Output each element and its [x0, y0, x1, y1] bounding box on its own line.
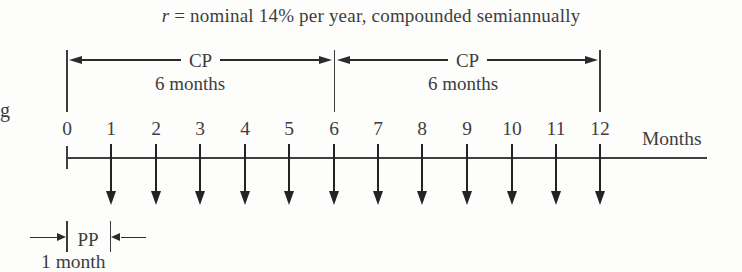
- payment-arrow-1: [105, 144, 117, 205]
- arrow-line: [350, 59, 448, 61]
- payment-arrow-9: [461, 144, 473, 205]
- cp-label-1: CP: [181, 51, 220, 70]
- origin-tick: [66, 146, 68, 169]
- cp-span-arrow-2: CP: [337, 50, 598, 70]
- arrow-down-icon: [462, 191, 472, 205]
- arrow-down-icon: [507, 191, 517, 205]
- arrow-stem: [288, 144, 291, 191]
- arrow-line: [487, 59, 585, 61]
- period-boundary-line-12: [599, 50, 601, 112]
- arrowhead-left-icon: [69, 56, 82, 64]
- payment-arrow-10: [506, 144, 518, 205]
- figure-title-text: = nominal 14% per year, compounded semia…: [174, 5, 580, 26]
- month-tick-label-7: 7: [373, 118, 383, 140]
- arrow-down-icon: [195, 191, 205, 205]
- arrow-line: [82, 59, 181, 61]
- pp-boundary-tick-left: [66, 221, 68, 252]
- pp-arrow-line-right: [121, 237, 146, 239]
- month-tick-label-4: 4: [240, 118, 250, 140]
- arrow-down-icon: [240, 191, 250, 205]
- arrowhead-right-icon: [319, 56, 332, 64]
- axis-unit-label: Months: [642, 128, 702, 150]
- arrow-down-icon: [106, 191, 116, 205]
- margin-text-fragment: g: [0, 99, 10, 122]
- arrow-stem: [377, 144, 380, 191]
- arrow-stem: [421, 144, 424, 191]
- period-boundary-line-0: [66, 50, 68, 112]
- pp-duration: 1 month: [41, 251, 105, 272]
- payment-arrow-3: [194, 144, 206, 205]
- arrow-down-icon: [417, 191, 427, 205]
- pp-arrow-line-left: [30, 237, 57, 239]
- month-tick-label-2: 2: [151, 118, 161, 140]
- arrow-stem: [110, 144, 113, 191]
- month-tick-label-0: 0: [62, 118, 72, 140]
- month-tick-label-1: 1: [106, 118, 116, 140]
- arrow-stem: [599, 144, 602, 191]
- arrow-down-icon: [284, 191, 294, 205]
- month-tick-label-3: 3: [195, 118, 205, 140]
- arrow-down-icon: [151, 191, 161, 205]
- cp-duration-2: 6 months: [428, 73, 498, 95]
- arrow-stem: [333, 144, 336, 191]
- payment-arrow-6: [328, 144, 340, 205]
- arrow-down-icon: [595, 191, 605, 205]
- month-tick-label-6: 6: [329, 118, 339, 140]
- arrow-stem: [466, 144, 469, 191]
- month-tick-label-9: 9: [462, 118, 472, 140]
- month-tick-label-8: 8: [417, 118, 427, 140]
- payment-arrow-4: [239, 144, 251, 205]
- arrow-stem: [244, 144, 247, 191]
- month-tick-label-10: 10: [502, 118, 522, 140]
- cp-duration-1: 6 months: [155, 73, 225, 95]
- cp-label-2: CP: [448, 51, 487, 70]
- arrow-down-icon: [329, 191, 339, 205]
- month-tick-label-12: 12: [590, 118, 610, 140]
- arrow-down-icon: [551, 191, 561, 205]
- payment-arrow-5: [283, 144, 295, 205]
- arrow-down-icon: [373, 191, 383, 205]
- arrow-stem: [199, 144, 202, 191]
- arrowhead-left-icon: [337, 56, 350, 64]
- payment-arrow-7: [372, 144, 384, 205]
- timeline-axis: [66, 157, 707, 159]
- cash-flow-timeline-diagram: r= nominal 14% per year, compounded semi…: [0, 0, 742, 272]
- arrow-line: [220, 59, 319, 61]
- payment-arrow-12: [594, 144, 606, 205]
- cp-span-arrow-1: CP: [69, 50, 332, 70]
- arrow-stem: [555, 144, 558, 191]
- period-boundary-line-6: [334, 50, 336, 112]
- payment-arrow-11: [550, 144, 562, 205]
- rate-symbol: r: [162, 5, 170, 26]
- payment-arrow-2: [150, 144, 162, 205]
- figure-title: r= nominal 14% per year, compounded semi…: [0, 5, 742, 27]
- month-tick-label-11: 11: [547, 118, 566, 140]
- month-tick-label-5: 5: [284, 118, 294, 140]
- arrow-stem: [155, 144, 158, 191]
- arrow-stem: [511, 144, 514, 191]
- pp-label: PP: [77, 229, 98, 251]
- payment-arrow-8: [416, 144, 428, 205]
- arrowhead-right-icon: [585, 56, 598, 64]
- arrowhead-right-icon: [57, 233, 66, 241]
- arrowhead-left-icon: [111, 233, 120, 241]
